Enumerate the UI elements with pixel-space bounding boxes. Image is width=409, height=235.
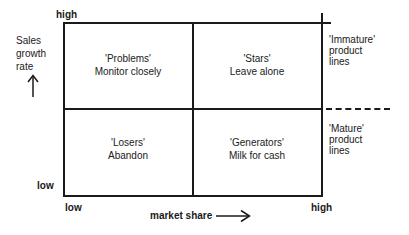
quadrant-problems: 'Problems' Monitor closely <box>63 52 193 78</box>
immature-label-line-3: lines <box>329 56 375 67</box>
quadrant-stars: 'Stars' Leave alone <box>193 52 321 78</box>
quadrant-losers-action: Abandon <box>63 149 193 162</box>
quadrant-stars-action: Leave alone <box>193 65 321 78</box>
y-axis-label-line-2: growth <box>16 47 46 60</box>
grid-top-line <box>63 22 331 24</box>
quadrant-losers: 'Losers' Abandon <box>63 136 193 162</box>
quadrant-problems-action: Monitor closely <box>63 65 193 78</box>
y-axis-low-label: low <box>37 180 54 192</box>
immature-label-line-1: 'Immature' <box>329 34 375 45</box>
maturity-divider-dashed-line <box>326 108 390 110</box>
mature-product-lines-label: 'Mature' product lines <box>329 123 364 156</box>
grid-right-line <box>321 13 323 197</box>
y-axis-label-line-3: rate <box>16 60 46 73</box>
mature-label-line-2: product <box>329 134 364 145</box>
quadrant-generators: 'Generators' Milk for cash <box>193 136 321 162</box>
immature-product-lines-label: 'Immature' product lines <box>329 34 375 67</box>
quadrant-generators-name: 'Generators' <box>193 136 321 149</box>
x-axis-high-label: high <box>311 202 332 214</box>
quadrant-generators-action: Milk for cash <box>193 149 321 162</box>
y-axis-high-label: high <box>56 9 77 21</box>
immature-label-line-2: product <box>329 45 375 56</box>
x-axis-low-label: low <box>65 202 82 214</box>
quadrant-losers-name: 'Losers' <box>63 136 193 149</box>
up-arrow-icon <box>27 74 39 98</box>
mature-label-line-1: 'Mature' <box>329 123 364 134</box>
mature-label-line-3: lines <box>329 145 364 156</box>
quadrant-problems-name: 'Problems' <box>63 52 193 65</box>
quadrant-stars-name: 'Stars' <box>193 52 321 65</box>
right-arrow-icon <box>215 209 251 223</box>
grid-left-line <box>63 22 65 197</box>
y-axis-label: Sales growth rate <box>16 34 46 73</box>
y-axis-label-line-1: Sales <box>16 34 46 47</box>
x-axis-label: market share <box>150 210 212 222</box>
grid-middle-vertical-line <box>192 22 194 197</box>
